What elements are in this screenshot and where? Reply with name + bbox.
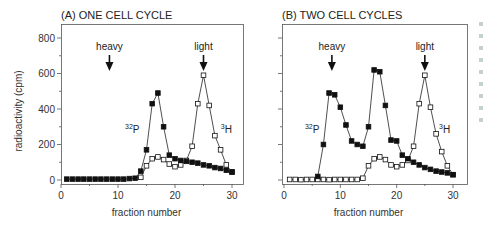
y-tick-label: 600 xyxy=(38,68,55,79)
down-arrow-icon xyxy=(105,62,113,71)
filled-square-marker xyxy=(127,176,132,181)
heavy-label: heavy xyxy=(319,41,346,52)
filled-square-marker xyxy=(445,171,450,176)
filled-square-marker xyxy=(349,139,354,144)
open-square-marker xyxy=(321,177,326,182)
open-square-marker xyxy=(139,175,144,180)
filled-square-marker xyxy=(213,165,218,170)
open-square-marker xyxy=(213,133,218,138)
open-square-marker xyxy=(372,156,377,161)
open-square-marker xyxy=(293,177,298,182)
open-square-marker xyxy=(411,144,416,149)
down-arrow-icon xyxy=(421,62,429,71)
filled-square-marker xyxy=(99,177,104,182)
open-square-marker xyxy=(361,176,366,181)
open-square-marker xyxy=(201,73,206,78)
filled-square-marker xyxy=(377,69,382,74)
filled-square-marker xyxy=(417,163,422,168)
open-square-marker xyxy=(161,157,166,162)
x-tick-label: 30 xyxy=(447,190,459,201)
open-square-marker xyxy=(349,177,354,182)
filled-square-marker xyxy=(400,153,405,158)
filled-square-marker xyxy=(327,91,332,96)
chart-title: (A) ONE CELL CYCLE xyxy=(61,9,172,21)
open-square-marker xyxy=(190,144,195,149)
open-square-marker xyxy=(299,177,304,182)
down-arrow-icon xyxy=(200,62,208,71)
filled-square-marker xyxy=(361,144,366,149)
open-square-marker xyxy=(310,177,315,182)
heavy-label: heavy xyxy=(96,41,123,52)
open-square-marker xyxy=(167,162,172,167)
filled-square-marker xyxy=(316,174,321,179)
filled-square-marker xyxy=(207,164,212,169)
filled-square-marker xyxy=(372,68,377,73)
y-axis-label: radioactivity (cpm) xyxy=(13,70,24,151)
open-square-marker xyxy=(394,164,399,169)
filled-square-marker xyxy=(411,160,416,165)
open-square-marker xyxy=(445,164,450,169)
open-square-marker xyxy=(400,163,405,168)
panel-a: (A) ONE CELL CYCLE0200400600800radioacti… xyxy=(13,9,244,218)
open-square-marker xyxy=(287,177,292,182)
filled-square-marker xyxy=(87,177,92,182)
open-square-marker xyxy=(304,177,309,182)
filled-square-marker xyxy=(428,167,433,172)
isotope-label-H: 3H xyxy=(221,123,232,135)
open-square-marker xyxy=(366,164,371,169)
open-square-marker xyxy=(150,156,155,161)
x-tick-label: 20 xyxy=(391,190,403,201)
x-tick-label: 10 xyxy=(335,190,347,201)
filled-square-marker xyxy=(439,170,444,175)
filled-square-marker xyxy=(355,142,360,147)
filled-square-marker xyxy=(139,169,144,174)
open-square-marker xyxy=(196,101,201,106)
x-tick-label: 0 xyxy=(58,190,64,201)
open-square-marker xyxy=(338,177,343,182)
x-tick-label: 20 xyxy=(169,190,181,201)
open-square-marker xyxy=(355,177,360,182)
open-square-marker xyxy=(389,163,394,168)
light-label: light xyxy=(416,41,435,52)
filled-square-marker xyxy=(196,161,201,166)
filled-square-marker xyxy=(338,105,343,110)
filled-square-marker xyxy=(64,177,69,182)
x-axis-label: fraction number xyxy=(112,207,182,218)
filled-square-marker xyxy=(121,177,126,182)
filled-square-marker xyxy=(93,177,98,182)
filled-square-marker xyxy=(389,138,394,143)
filled-square-marker xyxy=(224,168,229,173)
filled-square-marker xyxy=(116,177,121,182)
filled-square-marker xyxy=(173,156,178,161)
open-square-marker xyxy=(156,155,161,160)
filled-square-marker xyxy=(104,177,109,182)
filled-square-marker xyxy=(184,159,189,164)
isotope-label-H: 3H xyxy=(439,123,450,135)
filled-square-marker xyxy=(230,170,235,175)
filled-square-marker xyxy=(133,176,138,181)
open-square-marker xyxy=(423,73,428,78)
open-square-marker xyxy=(417,101,422,106)
filled-square-marker xyxy=(167,153,172,158)
filled-square-marker xyxy=(82,177,87,182)
filled-square-marker xyxy=(394,139,399,144)
open-square-marker xyxy=(439,149,444,154)
filled-square-marker xyxy=(190,160,195,165)
open-square-marker xyxy=(218,148,223,153)
filled-square-marker xyxy=(332,93,337,98)
open-square-marker xyxy=(428,105,433,110)
light-label: light xyxy=(194,41,213,52)
open-square-marker xyxy=(383,157,388,162)
filled-square-marker xyxy=(451,172,456,177)
filled-square-marker xyxy=(383,103,388,108)
filled-square-marker xyxy=(144,148,149,153)
filled-square-marker xyxy=(344,123,349,128)
y-tick-label: 200 xyxy=(38,139,55,150)
filled-square-marker xyxy=(218,166,223,171)
filled-square-marker xyxy=(150,101,155,106)
open-square-marker xyxy=(327,177,332,182)
cropped-margin-text xyxy=(476,16,487,216)
open-square-marker xyxy=(144,164,149,169)
filled-square-marker xyxy=(201,163,206,168)
x-axis-label: fraction number xyxy=(334,207,404,218)
